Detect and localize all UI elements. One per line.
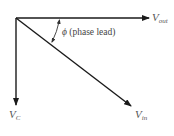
- phase-angle-arc: [52, 20, 60, 42]
- vin-label: Vin: [135, 108, 147, 122]
- phase-lead-label: ϕ (phase lead): [62, 27, 115, 37]
- phasor-diagram: Vout VC Vin ϕ (phase lead): [0, 0, 174, 136]
- vout-label: Vout: [152, 11, 168, 25]
- phi-symbol: ϕ: [62, 27, 67, 37]
- vc-label: VC: [9, 108, 20, 122]
- phasor-lines: [0, 0, 174, 136]
